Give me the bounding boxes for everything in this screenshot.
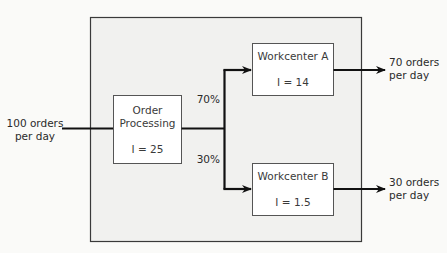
- workcenter-a-inventory: I = 14: [277, 76, 309, 88]
- order-processing-inventory: I = 25: [132, 143, 164, 155]
- flow-diagram: 100 orders per day Order Processing I = …: [0, 0, 447, 253]
- input-label-line1: 100 orders: [7, 117, 64, 129]
- output-b-label-line1: 30 orders: [389, 176, 439, 188]
- input-label-line2: per day: [15, 130, 55, 142]
- order-processing-title-line2: Processing: [119, 117, 175, 129]
- output-a-label-line2: per day: [389, 69, 429, 81]
- workcenter-b-title: Workcenter B: [258, 170, 329, 182]
- output-a-label-line1: 70 orders: [389, 56, 439, 68]
- workcenter-a-title: Workcenter A: [258, 50, 330, 62]
- upper-split-percentage: 70%: [197, 93, 220, 105]
- lower-split-percentage: 30%: [197, 153, 220, 165]
- order-processing-title-line1: Order: [133, 104, 164, 116]
- output-b-label-line2: per day: [389, 189, 429, 201]
- workcenter-b-inventory: I = 1.5: [275, 196, 310, 208]
